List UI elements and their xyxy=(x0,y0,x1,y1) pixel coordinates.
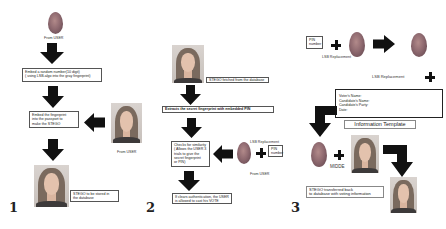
panel-number: 1 xyxy=(9,200,18,215)
panel-number: 2 xyxy=(146,200,155,215)
down-arrow-icon xyxy=(42,139,64,161)
plus-icon xyxy=(256,148,266,158)
similarity-check-box: Checks for similarity ( Allows the USER … xyxy=(171,141,210,167)
bent-down-arrow-icon xyxy=(309,106,337,137)
down-arrow-icon xyxy=(178,171,200,191)
stego-transferred-box: STEGO transferred back to database with … xyxy=(306,186,384,198)
fingerprint-stego-image xyxy=(311,142,327,167)
right-arrow-icon xyxy=(373,35,395,53)
fingerprint-image-user xyxy=(48,12,63,34)
panel-number: 3 xyxy=(291,200,300,215)
stego-photo xyxy=(34,165,69,207)
lsb-replacement-label: LSB Replacement xyxy=(372,74,404,79)
passport-photo xyxy=(351,135,379,173)
embed-pin-box: Embed a random number(10 digit) ( using … xyxy=(22,68,102,82)
lsb-replacement-label: LSB Replacement xyxy=(250,140,279,144)
left-arrow-icon xyxy=(84,113,105,132)
lsb-replacement-label: LSB Replacement xyxy=(322,55,351,59)
midde-label: MIDDE xyxy=(330,164,345,169)
information-template-box: Voter's Name: Candidate's Name: Candidat… xyxy=(335,89,443,118)
fingerprint-stego-image xyxy=(411,33,427,57)
plus-icon xyxy=(334,150,344,160)
passport-photo xyxy=(111,103,142,143)
stego-fetched-box: STEGO fetched from the database xyxy=(206,77,269,83)
fingerprint-image-user xyxy=(237,142,251,164)
embed-fingerprint-box: Embed the fingerprint into the passport … xyxy=(29,111,79,128)
information-template-title: Information Template xyxy=(344,120,416,129)
from-user-caption: From USER xyxy=(250,172,269,176)
bent-down-arrow-icon xyxy=(383,145,413,177)
fingerprint-image xyxy=(349,32,365,57)
final-stego-photo xyxy=(390,177,417,213)
stego-photo xyxy=(172,45,204,83)
plus-icon xyxy=(331,40,341,50)
down-arrow-icon xyxy=(181,118,202,138)
extract-fingerprint-box: Extracts the secret fingerprint with emb… xyxy=(162,106,274,113)
plus-icon xyxy=(425,72,435,82)
pin-number-box: PIN number xyxy=(306,36,323,49)
left-arrow-icon xyxy=(213,145,233,163)
down-arrow-icon xyxy=(180,85,201,105)
from-user-caption: From USER xyxy=(117,150,136,154)
authentication-result-box: If clears authentication, the USER is al… xyxy=(172,193,232,204)
down-arrow-icon xyxy=(42,86,64,108)
from-user-caption: From USER xyxy=(44,36,63,40)
stego-stored-box: STEGO to be stored in the database xyxy=(70,190,119,202)
pin-number-box: PIN number xyxy=(268,145,283,157)
down-arrow-icon xyxy=(40,43,64,64)
